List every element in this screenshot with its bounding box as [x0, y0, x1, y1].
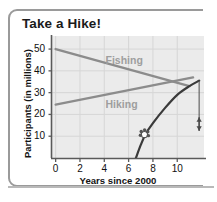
x-tick-label: 10	[167, 164, 187, 174]
x-tick-label: 6	[119, 164, 139, 174]
y-tick-label: 10	[23, 131, 45, 141]
x-axis-title: Years since 2000	[52, 175, 184, 186]
x-tick-label: 4	[94, 164, 114, 174]
x-tick-label: 0	[46, 164, 66, 174]
y-tick-label: 40	[23, 66, 45, 76]
frame-right-mask	[203, 6, 217, 192]
y-tick-label: 50	[23, 44, 45, 54]
page-title: Take a Hike!	[22, 16, 101, 31]
chart-figure: Take a Hike! Participants (in millions) …	[0, 0, 217, 202]
series-label-fishing: Fishing	[106, 54, 143, 66]
y-tick-label: 20	[23, 109, 45, 119]
x-tick-label: 2	[70, 164, 90, 174]
frame-bottom-divider	[8, 186, 214, 188]
y-axis-title: Participants (in millions)	[22, 44, 33, 164]
y-tick-label: 30	[23, 88, 45, 98]
series-label-hiking: Hiking	[106, 98, 138, 110]
x-tick-label: 8	[143, 164, 163, 174]
gap-measure-arrow	[197, 81, 202, 131]
